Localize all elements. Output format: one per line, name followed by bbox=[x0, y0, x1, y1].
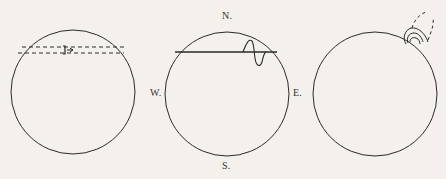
panel-1-arrow-icon bbox=[67, 48, 73, 52]
compass-east-label: E. bbox=[293, 87, 302, 98]
panel-3-loop-inner bbox=[410, 38, 420, 44]
panel-1-diagram bbox=[11, 30, 135, 154]
panel-2-circle bbox=[165, 32, 289, 156]
panel-3-dashed-extension-2 bbox=[428, 18, 433, 40]
diagram-canvas bbox=[0, 0, 446, 179]
panel-2-diagram bbox=[165, 32, 289, 156]
panel-2-wave bbox=[243, 40, 266, 65]
compass-south-label: S. bbox=[222, 160, 230, 171]
panel-1-circle bbox=[11, 30, 135, 154]
compass-north-label: N. bbox=[222, 10, 232, 21]
compass-west-label: W. bbox=[150, 87, 161, 98]
panel-3-circle bbox=[313, 32, 437, 156]
panel-3-diagram bbox=[313, 12, 437, 156]
panel-3-dashed-extension bbox=[412, 12, 426, 28]
